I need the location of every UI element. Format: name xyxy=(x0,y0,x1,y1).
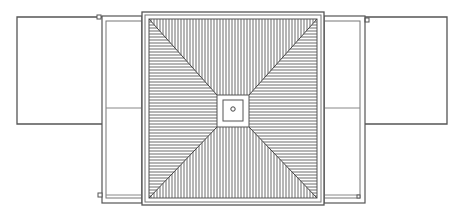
diagram-svg xyxy=(0,0,460,217)
left-door-leaf xyxy=(98,16,142,203)
left-open-panel xyxy=(17,15,102,124)
diagram-canvas: Top view: hatched square unit with centr… xyxy=(0,0,460,217)
center-hole-icon xyxy=(231,107,235,111)
right-door-leaf xyxy=(324,16,365,203)
center-fixture xyxy=(217,95,249,127)
right-open-panel xyxy=(365,17,447,124)
